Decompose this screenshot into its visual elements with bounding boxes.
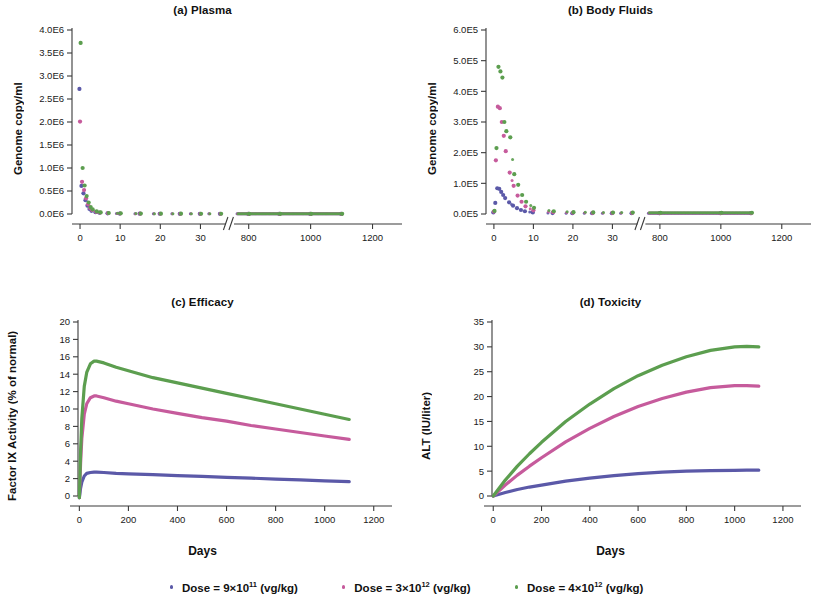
panel-toxicity: (d) Toxicity ALT (IU/liter) 051015202530… [408,296,813,566]
panel-d-xtick: 200 [534,514,550,525]
panel-c-xtick: 1200 [363,514,384,525]
panel-a-ytick: 4.0E6 [39,24,64,35]
panel-b-ylabel: Genome copy/ml [426,44,438,214]
panel-b-xtick: 20 [568,232,579,243]
panel-c-title: (c) Efficacy [0,296,405,308]
panel-d-ylabel: ALT (IU/liter) [420,346,432,506]
panel-c-xlabel: Days [0,544,405,558]
panel-c-ytick: 0 [65,490,70,501]
panel-d-ytick: 10 [473,441,484,452]
panel-a-xtick: 1200 [362,232,383,243]
figure-root: (a) Plasma Genome copy/ml 0.0E60.5E61.0E… [0,0,813,607]
panel-c-plot: 02468101214161820020040060080010001200 [72,318,392,518]
panel-b-series [491,186,753,215]
panel-c-ytick: 10 [59,403,70,414]
figure-legend: Dose = 9×1011 (vg/kg)Dose = 3×1012 (vg/k… [0,580,813,594]
panel-d-xlabel: Days [408,544,813,558]
legend-item: Dose = 9×1011 (vg/kg) [170,580,298,594]
panel-d-plot: 05101520253035020040060080010001200 [486,318,801,518]
legend-item: Dose = 4×1012 (vg/kg) [515,580,644,594]
panel-a-xtick: 20 [155,232,166,243]
panel-c-ytick: 4 [65,456,70,467]
panel-a-ytick: 3.5E6 [39,47,64,58]
panel-c-xtick: 400 [170,514,186,525]
panel-b-series [492,65,754,215]
panel-c-ytick: 14 [59,369,70,380]
panel-c-ytick: 8 [65,421,70,432]
panel-c-ytick: 12 [59,386,70,397]
panel-d-ytick: 30 [473,341,484,352]
legend-marker-dot-icon [342,585,345,588]
panel-d-ytick: 15 [473,416,484,427]
panel-b-ytick: 5.0E5 [453,55,478,66]
legend-marker-dot-icon [170,585,173,588]
panel-b-xtick: 0 [491,232,496,243]
legend-marker-dot-icon [515,585,518,588]
panel-plasma: (a) Plasma Genome copy/ml 0.0E60.5E61.0E… [0,4,405,274]
panel-c-series-line [79,472,349,498]
panel-b-ytick: 4.0E5 [453,86,478,97]
legend-label: Dose = 4×1012 (vg/kg) [527,580,643,594]
panel-d-xtick: 400 [582,514,598,525]
panel-a-ylabel: Genome copy/ml [12,44,24,214]
panel-a-xtick: 10 [115,232,126,243]
panel-d-series-line [493,470,759,496]
panel-a-xtick: 1000 [300,232,321,243]
panel-b-xtick: 10 [528,232,539,243]
panel-c-ytick: 18 [59,334,70,345]
panel-a-ytick: 2.5E6 [39,93,64,104]
panel-d-ytick: 0 [479,490,484,501]
panel-b-series [492,105,754,216]
panel-b-ytick: 3.0E5 [453,116,478,127]
panel-a-plot: 0.0E60.5E61.0E61.5E62.0E62.5E63.0E63.5E6… [72,26,392,256]
panel-a-xtick: 0 [77,232,82,243]
panel-d-title: (d) Toxicity [408,296,813,308]
panel-b-xtick: 800 [652,232,668,243]
panel-d-ytick: 35 [473,316,484,327]
panel-efficacy: (c) Efficacy Factor IX Activity (% of no… [0,296,405,566]
panel-b-ytick: 6.0E5 [453,24,478,35]
panel-a-canvas: 0.0E60.5E61.0E61.5E62.0E62.5E63.0E63.5E6… [72,26,392,256]
panel-b-xtick: 1000 [710,232,731,243]
panel-b-ytick: 2.0E5 [453,147,478,158]
panel-c-ytick: 20 [59,316,70,327]
legend-label: Dose = 3×1012 (vg/kg) [354,580,470,594]
panel-d-xtick: 600 [630,514,646,525]
panel-b-canvas: 0.0E51.0E52.0E53.0E54.0E55.0E56.0E501020… [486,26,801,256]
panel-d-ytick: 20 [473,391,484,402]
panel-b-xtick: 1200 [771,232,792,243]
panel-c-xtick: 800 [268,514,284,525]
panel-a-ytick: 0.0E6 [39,208,64,219]
panel-a-xtick: 800 [241,232,257,243]
panel-d-xtick: 800 [678,514,694,525]
panel-a-series [78,119,344,215]
panel-c-xtick: 600 [219,514,235,525]
panel-c-xtick: 200 [120,514,136,525]
panel-a-xtick: 30 [195,232,206,243]
panel-a-ytick: 1.0E6 [39,162,64,173]
panel-a-title: (a) Plasma [0,4,405,16]
panel-d-xtick: 0 [491,514,496,525]
panel-c-ytick: 2 [65,473,70,484]
panel-d-xtick: 1200 [772,514,793,525]
panel-c-canvas: 02468101214161820020040060080010001200 [72,318,392,518]
panel-c-ytick: 6 [65,438,70,449]
panel-c-ylabel: Factor IX Activity (% of normal) [6,316,18,516]
panel-d-series-line [493,386,759,496]
panel-a-ytick: 0.5E6 [39,185,64,196]
panel-a-ytick: 1.5E6 [39,139,64,150]
panel-b-plot: 0.0E51.0E52.0E53.0E54.0E55.0E56.0E501020… [486,26,801,256]
panel-d-ytick: 25 [473,366,484,377]
panel-b-xtick: 30 [607,232,618,243]
panel-d-xtick: 1000 [724,514,745,525]
panel-a-ytick: 3.0E6 [39,70,64,81]
panel-a-series [77,87,343,216]
panel-b-ytick: 1.0E5 [453,178,478,189]
panel-c-ytick: 16 [59,351,70,362]
panel-c-xtick: 0 [77,514,82,525]
panel-b-ytick: 0.0E5 [453,208,478,219]
panel-body-fluids: (b) Body Fluids Genome copy/ml 0.0E51.0E… [408,4,813,274]
panel-b-title: (b) Body Fluids [408,4,813,16]
panel-c-xtick: 1000 [314,514,335,525]
legend-item: Dose = 3×1012 (vg/kg) [342,580,471,594]
